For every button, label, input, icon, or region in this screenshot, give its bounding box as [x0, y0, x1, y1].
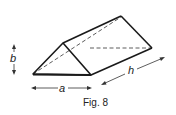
label-h: h — [128, 65, 134, 76]
hidden-edges — [33, 17, 152, 74]
visible-edges — [33, 16, 152, 75]
figure-caption: Fig. 8 — [83, 98, 108, 108]
label-a: a — [59, 83, 65, 94]
base-edge — [33, 75, 91, 76]
label-b: b — [10, 53, 16, 64]
